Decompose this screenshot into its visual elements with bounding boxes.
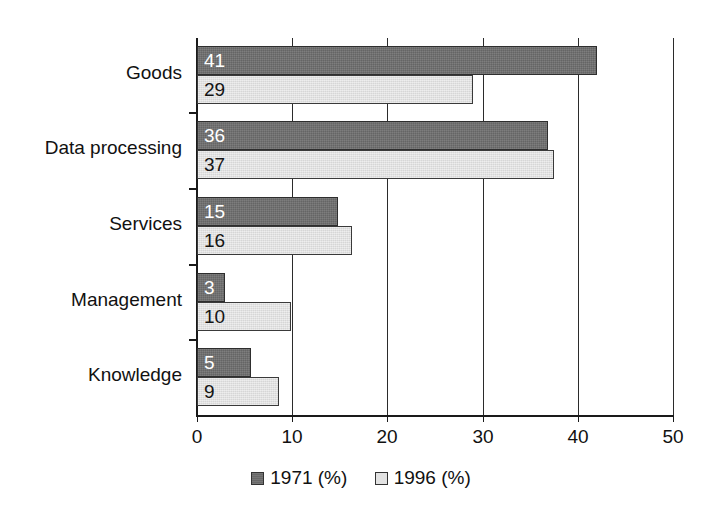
y-axis-category-tick-3 [189, 264, 197, 266]
bar-management-1996[interactable]: 10 [197, 302, 291, 331]
x-axis-line [196, 415, 674, 417]
x-tick-label-20: 20 [357, 426, 417, 448]
bar-value-knowledge-1971: 5 [204, 353, 215, 373]
legend-label-1996: 1996 (%) [394, 467, 471, 488]
y-axis-category-labels: Goods Data processing Services Managemen… [0, 38, 190, 415]
light-gray-swatch-icon [375, 472, 388, 485]
bar-value-services-1996: 16 [204, 231, 225, 251]
bar-services-1971[interactable]: 15 [197, 197, 338, 226]
bar-goods-1971[interactable]: 41 [197, 46, 597, 75]
legend-label-1971: 1971 (%) [270, 467, 347, 488]
y-axis-label-knowledge: Knowledge [0, 365, 182, 385]
gridline-50 [673, 38, 674, 415]
bar-value-data-processing-1971: 36 [204, 126, 225, 146]
bar-value-knowledge-1996: 9 [204, 382, 215, 402]
gridline-40 [578, 38, 579, 415]
x-tick-50 [673, 415, 674, 422]
y-axis-label-data-processing: Data processing [0, 138, 182, 158]
x-tick-30 [483, 415, 484, 422]
bar-management-1971[interactable]: 3 [197, 273, 225, 302]
dark-gray-swatch-icon [251, 472, 264, 485]
bar-value-data-processing-1996: 37 [204, 155, 225, 175]
x-tick-10 [292, 415, 293, 422]
x-tick-label-50: 50 [643, 426, 703, 448]
x-tick-0 [197, 415, 198, 422]
bar-goods-1996[interactable]: 29 [197, 75, 473, 104]
x-tick-label-10: 10 [262, 426, 322, 448]
bar-data-processing-1996[interactable]: 37 [197, 150, 554, 179]
x-tick-40 [578, 415, 579, 422]
bar-value-goods-1996: 29 [204, 80, 225, 100]
gridline-30 [483, 38, 484, 415]
bar-value-management-1996: 10 [204, 307, 225, 327]
y-axis-label-management: Management [0, 290, 182, 310]
y-axis-category-tick-1 [189, 112, 197, 114]
bar-value-goods-1971: 41 [204, 51, 225, 71]
bar-services-1996[interactable]: 16 [197, 226, 352, 255]
bar-knowledge-1996[interactable]: 9 [197, 377, 279, 406]
plot-area: 0 10 20 30 40 50 41 29 36 37 15 16 [197, 38, 673, 415]
x-tick-20 [387, 415, 388, 422]
bar-data-processing-1971[interactable]: 36 [197, 121, 548, 150]
y-axis-category-tick-4 [189, 339, 197, 341]
x-tick-label-30: 30 [453, 426, 513, 448]
bar-value-services-1971: 15 [204, 202, 225, 222]
y-axis-category-tick-2 [189, 188, 197, 190]
bar-value-management-1971: 3 [204, 278, 215, 298]
chart-legend: 1971 (%) 1996 (%) [0, 466, 722, 489]
bar-chart-figure: Goods Data processing Services Managemen… [0, 0, 722, 521]
y-axis-label-services: Services [0, 214, 182, 234]
x-tick-label-0: 0 [167, 426, 227, 448]
legend-entry-1996[interactable]: 1996 (%) [375, 467, 471, 489]
x-tick-label-40: 40 [548, 426, 608, 448]
bar-knowledge-1971[interactable]: 5 [197, 348, 251, 377]
y-axis-label-goods: Goods [0, 63, 182, 83]
legend-entry-1971[interactable]: 1971 (%) [251, 467, 347, 489]
